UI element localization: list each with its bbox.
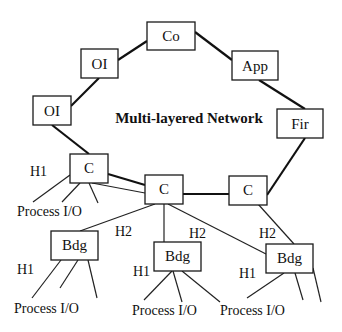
link-oi-lower-c-left — [52, 125, 89, 154]
link-c-left-c-middle — [108, 174, 145, 185]
label-process-io-bdg-middle: Process I/O — [132, 303, 197, 318]
diagram-title: Multi-layered Network — [115, 110, 263, 126]
io-line — [88, 260, 97, 298]
io-line — [313, 268, 321, 302]
io-line — [62, 183, 80, 202]
link-oi-upper-oi-lower — [71, 78, 99, 106]
label-process-io-bdg-right: Process I/O — [220, 303, 285, 318]
multi-layered-network-diagram: Co OI App OI Fir C C C Bdg Bdg Bdg Multi… — [0, 0, 342, 332]
node-oi-lower-label: OI — [44, 103, 60, 119]
io-line — [89, 183, 98, 203]
node-c-left-label: C — [84, 160, 94, 176]
node-bdg-right-label: Bdg — [277, 250, 303, 266]
node-co: Co — [147, 22, 195, 50]
io-line — [33, 175, 70, 202]
label-h1-c-left: H1 — [30, 164, 47, 179]
node-fir-label: Fir — [291, 116, 309, 132]
io-line — [295, 273, 303, 300]
node-bdg-middle-label: Bdg — [165, 248, 191, 264]
node-bdg-left-label: Bdg — [62, 237, 88, 253]
node-c-right: C — [229, 176, 267, 205]
node-fir: Fir — [277, 109, 323, 138]
link-app-fir — [259, 80, 305, 109]
node-c-middle-label: C — [159, 181, 169, 197]
link-co-oi-upper — [118, 41, 147, 60]
label-h1-bdg-middle: H1 — [133, 264, 150, 279]
label-h2-bdg-left: H2 — [115, 224, 132, 239]
link-co-app — [195, 32, 232, 60]
label-process-io-bdg-left: Process I/O — [14, 301, 79, 316]
node-co-label: Co — [162, 28, 180, 44]
node-bdg-middle: Bdg — [154, 242, 201, 271]
node-app-label: App — [242, 58, 268, 74]
label-process-io-c-left: Process I/O — [17, 204, 82, 219]
io-line — [173, 271, 182, 302]
node-c-right-label: C — [243, 182, 253, 198]
io-line — [32, 260, 61, 298]
node-oi-upper: OI — [81, 49, 118, 78]
link-c-left-c-middle-thin — [92, 183, 145, 193]
label-h2-bdg-middle: H2 — [189, 226, 206, 241]
label-h2-bdg-right: H2 — [259, 226, 276, 241]
node-bdg-left: Bdg — [51, 231, 98, 260]
io-line — [182, 271, 220, 302]
node-app: App — [232, 51, 278, 80]
node-c-middle: C — [145, 175, 183, 204]
link-fir-c-right — [267, 138, 305, 195]
label-h1-bdg-left: H1 — [17, 262, 34, 277]
node-oi-upper-label: OI — [92, 56, 108, 72]
label-h1-bdg-right: H1 — [239, 266, 256, 281]
node-bdg-right: Bdg — [266, 244, 313, 273]
node-c-left: C — [70, 154, 108, 183]
io-line — [60, 260, 78, 288]
node-oi-lower: OI — [33, 96, 71, 125]
